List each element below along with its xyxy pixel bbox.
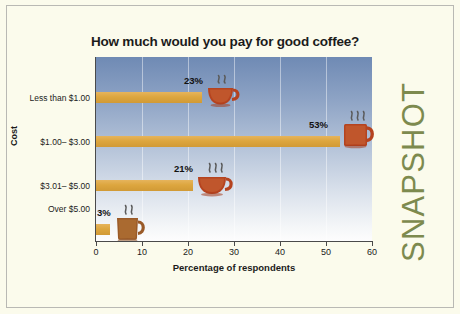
xtick-40 — [280, 242, 281, 246]
coffee-mug-icon — [110, 201, 152, 245]
ytick-label-3-to-5: $3.01– $5.00 — [12, 181, 90, 191]
data-label-less-than-1: 23% — [184, 75, 203, 86]
data-label-3-to-5: 21% — [174, 163, 193, 174]
xtick-label-20: 20 — [176, 247, 200, 257]
xtick-label-40: 40 — [268, 247, 292, 257]
ytick-label-over-5: Over $5.00 — [12, 204, 90, 214]
xtick-label-10: 10 — [130, 247, 154, 257]
xtick-20 — [188, 242, 189, 246]
y-axis-line — [95, 57, 96, 242]
xtick-label-30: 30 — [222, 247, 246, 257]
bar-over-5[interactable] — [96, 224, 110, 235]
xtick-10 — [142, 242, 143, 246]
gridline-40 — [280, 57, 281, 241]
plot-area: 23% 53% 21% 3% — [96, 57, 372, 241]
data-label-over-5: 3% — [97, 207, 111, 218]
coffee-mug-icon — [336, 107, 380, 153]
bar-less-than-1[interactable] — [96, 92, 202, 103]
xtick-50 — [326, 242, 327, 246]
y-axis-title: Cost — [9, 126, 19, 146]
ytick-label-less-than-1: Less than $1.00 — [12, 93, 90, 103]
gridline-50 — [326, 57, 327, 241]
snapshot-card: How much would you pay for good coffee? … — [0, 0, 460, 314]
ytick-label-1-to-3: $1.00– $3.00 — [12, 137, 90, 147]
xtick-30 — [234, 242, 235, 246]
xtick-label-50: 50 — [314, 247, 338, 257]
bar-1-to-3[interactable] — [96, 136, 340, 147]
chart-title: How much would you pay for good coffee? — [80, 34, 370, 49]
snapshot-wordmark: SNAPSHOT — [396, 82, 432, 262]
x-axis-title: Percentage of respondents — [96, 262, 372, 273]
bar-3-to-5[interactable] — [96, 180, 193, 191]
coffee-cup-icon — [193, 159, 237, 201]
xtick-0 — [96, 242, 97, 246]
xtick-label-0: 0 — [84, 247, 108, 257]
xtick-label-60: 60 — [360, 247, 384, 257]
coffee-cup-icon — [202, 71, 244, 111]
data-label-1-to-3: 53% — [309, 119, 328, 130]
xtick-60 — [372, 242, 373, 246]
